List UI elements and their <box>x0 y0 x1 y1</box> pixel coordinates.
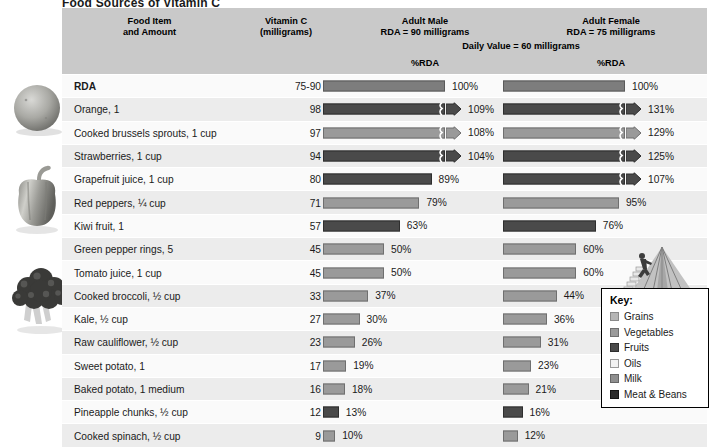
male-bar <box>323 151 445 162</box>
table-row: RDA75-90100%100% <box>62 74 707 97</box>
bar-break-mark <box>437 126 444 139</box>
column-header-adult-male-line1: Adult Male <box>402 16 448 26</box>
table-row: Cooked brussels sprouts, 1 cup97108%129% <box>62 121 707 144</box>
food-item-label: Green pepper rings, 5 <box>74 244 173 255</box>
daily-value-note: Daily Value = 60 milligrams <box>335 41 707 52</box>
column-header-pct-rda-female: %RDA <box>515 58 707 69</box>
female-bar <box>503 407 523 418</box>
food-item-label: Raw cauliflower, ½ cup <box>74 337 178 348</box>
bar-overflow-arrow <box>626 103 641 116</box>
female-percent-label: 60% <box>583 244 603 255</box>
vitamin-c-value: 27 <box>237 314 321 325</box>
bar-overflow-arrow <box>446 126 461 139</box>
male-percent-label: 30% <box>367 314 387 325</box>
bell-pepper-photo <box>6 160 68 240</box>
table-row: Cooked spinach, ½ cup910%12% <box>62 423 707 446</box>
bar-break-mark <box>437 150 444 163</box>
key-swatch-meat <box>610 390 619 399</box>
key-legend: Key: GrainsVegetablesFruitsOilsMilkMeat … <box>601 288 709 408</box>
bar-break-mark <box>437 103 444 116</box>
male-bar <box>323 104 445 115</box>
key-title: Key: <box>610 294 701 306</box>
table-row: Red peppers, ¼ cup7179%95% <box>62 190 707 213</box>
bar-break-mark <box>617 103 624 116</box>
male-bar <box>323 244 384 255</box>
key-label: Meat & Beans <box>624 389 687 400</box>
key-item-oils: Oils <box>610 356 701 372</box>
male-bar <box>323 127 445 138</box>
key-item-grains: Grains <box>610 309 701 325</box>
bar-overflow-arrow <box>446 103 461 116</box>
female-bar <box>503 220 596 231</box>
female-percent-label: 23% <box>538 360 558 371</box>
vitamin-c-value: 17 <box>237 360 321 371</box>
vitamin-c-value: 33 <box>237 290 321 301</box>
female-percent-label: 31% <box>548 337 568 348</box>
female-bar <box>503 384 529 395</box>
male-percent-label: 18% <box>352 384 372 395</box>
male-percent-label: 79% <box>426 197 446 208</box>
male-percent-label: 63% <box>407 220 427 231</box>
male-percent-label: 89% <box>439 174 459 185</box>
female-bar <box>503 267 576 278</box>
vitamin-c-value: 97 <box>237 127 321 138</box>
male-percent-label: 19% <box>353 360 373 371</box>
key-items: GrainsVegetablesFruitsOilsMilkMeat & Bea… <box>610 309 701 402</box>
orange-photo <box>6 78 68 140</box>
key-swatch-milk <box>610 374 619 383</box>
vitamin-c-value: 45 <box>237 244 321 255</box>
male-bar <box>323 407 339 418</box>
column-header-food-item-line1: Food Item <box>128 16 172 26</box>
column-header-adult-male: Adult Male RDA = 90 milligrams <box>335 16 515 38</box>
male-percent-label: 10% <box>342 430 362 441</box>
vitamin-c-value: 16 <box>237 384 321 395</box>
table-row: Strawberries, 1 cup94104%125% <box>62 144 707 167</box>
key-label: Oils <box>624 358 641 369</box>
column-header-food-item-line2: and Amount <box>62 27 237 38</box>
column-header-adult-female: Adult Female RDA = 75 milligrams <box>515 16 707 38</box>
female-bar <box>503 104 625 115</box>
bar-overflow-arrow <box>626 173 641 186</box>
male-bar <box>323 360 346 371</box>
food-item-label: Red peppers, ¼ cup <box>74 197 166 208</box>
female-bar <box>503 314 547 325</box>
female-bar <box>503 290 557 301</box>
key-item-meat: Meat & Beans <box>610 387 701 403</box>
key-item-milk: Milk <box>610 371 701 387</box>
female-percent-label: 60% <box>583 267 603 278</box>
column-header-adult-female-line2: RDA = 75 milligrams <box>515 27 707 38</box>
food-item-label: Kiwi fruit, 1 <box>74 220 124 231</box>
bar-break-mark <box>617 126 624 139</box>
column-header-vitamin-c-line1: Vitamin C <box>265 16 307 26</box>
column-header-food-item: Food Item and Amount <box>62 16 237 38</box>
female-bar <box>503 197 619 208</box>
female-bar <box>503 151 625 162</box>
bar-overflow-arrow <box>446 150 461 163</box>
female-percent-label: 100% <box>632 81 658 92</box>
key-label: Vegetables <box>624 327 674 338</box>
key-swatch-grains <box>610 312 619 321</box>
food-item-label: Strawberries, 1 cup <box>74 151 162 162</box>
female-bar <box>503 174 625 185</box>
bar-overflow-arrow <box>626 126 641 139</box>
male-percent-label: 100% <box>452 81 478 92</box>
food-item-label: Orange, 1 <box>74 104 119 115</box>
female-percent-label: 107% <box>648 174 674 185</box>
female-bar <box>503 81 625 92</box>
bar-overflow-arrow <box>626 150 641 163</box>
male-percent-label: 109% <box>468 104 494 115</box>
male-bar <box>323 290 368 301</box>
table-row: Tomato juice, 1 cup4550%60% <box>62 260 707 283</box>
bar-break-mark <box>617 150 624 163</box>
female-percent-label: 129% <box>648 127 674 138</box>
male-bar <box>323 220 400 231</box>
vitamin-c-value: 80 <box>237 174 321 185</box>
column-header-vitamin-c: Vitamin C (milligrams) <box>237 16 335 38</box>
male-percent-label: 104% <box>468 151 494 162</box>
vitamin-c-value: 98 <box>237 104 321 115</box>
food-item-label: Kale, ½ cup <box>74 314 128 325</box>
key-label: Milk <box>624 373 642 384</box>
key-label: Grains <box>624 311 653 322</box>
table-row: Kiwi fruit, 15763%76% <box>62 214 707 237</box>
vitamin-c-value: 94 <box>237 151 321 162</box>
